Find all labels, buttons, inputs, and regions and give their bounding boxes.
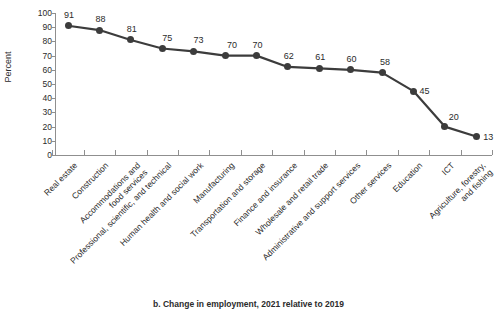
data-point-marker	[127, 36, 134, 43]
y-axis-tick-label: 50	[18, 79, 52, 89]
data-point-marker	[316, 65, 323, 72]
x-axis-tick-mark	[335, 150, 336, 155]
y-axis-tick-mark	[51, 98, 55, 99]
y-axis-tick-label: 100	[18, 8, 52, 18]
data-point-marker	[410, 88, 417, 95]
data-point-marker	[222, 52, 229, 59]
data-point-marker	[473, 133, 480, 140]
x-axis-category-labels: Real estateConstructionAccommodations an…	[0, 155, 497, 295]
x-axis-tick-mark	[461, 150, 462, 155]
data-point-label: 70	[227, 40, 237, 50]
data-point-label: 45	[419, 86, 429, 96]
figure-caption: b. Change in employment, 2021 relative t…	[0, 299, 497, 309]
y-axis-tick-mark	[51, 56, 55, 57]
data-point-marker	[65, 22, 72, 29]
data-point-marker	[379, 69, 386, 76]
y-axis-tick-label: 70	[18, 51, 52, 61]
employment-change-line-chart: Percent 1009080706050403020100 918881757…	[0, 0, 497, 312]
x-axis-tick-mark	[147, 150, 148, 155]
data-point-label: 75	[162, 33, 172, 43]
y-axis-line	[55, 13, 56, 155]
x-axis-tick-mark	[366, 150, 367, 155]
y-axis-tick-mark	[51, 70, 55, 71]
y-axis-tick-mark	[51, 141, 55, 142]
data-point-label: 73	[194, 35, 204, 45]
data-point-label: 62	[284, 51, 294, 61]
x-axis-category-label: Education	[392, 161, 425, 194]
y-axis-title: Percent	[3, 37, 13, 97]
y-axis-tick-labels: 1009080706050403020100	[18, 8, 52, 160]
data-point-marker	[253, 52, 260, 59]
data-point-label: 61	[315, 52, 325, 62]
x-axis-tick-mark	[84, 150, 85, 155]
x-axis-tick-mark	[272, 150, 273, 155]
x-axis-tick-mark	[304, 150, 305, 155]
y-axis-tick-label: 30	[18, 107, 52, 117]
data-point-label: 91	[64, 10, 74, 20]
x-axis-tick-mark	[178, 150, 179, 155]
data-point-marker	[190, 48, 197, 55]
y-axis-tick-mark	[51, 127, 55, 128]
data-point-label: 81	[127, 24, 137, 34]
x-axis-tick-mark	[209, 150, 210, 155]
y-axis-tick-mark	[51, 13, 55, 14]
y-axis-tick-mark	[51, 112, 55, 113]
y-axis-tick-label: 90	[18, 22, 52, 32]
data-point-marker	[441, 123, 448, 130]
y-axis-tick-mark	[51, 84, 55, 85]
data-point-label: 60	[347, 54, 357, 64]
y-axis-tick-label: 40	[18, 93, 52, 103]
x-axis-tick-mark	[115, 150, 116, 155]
y-axis-tick-label: 20	[18, 122, 52, 132]
x-axis-tick-mark	[429, 150, 430, 155]
x-axis-category-label: Agriculture, forestry, and fishing	[428, 161, 495, 228]
data-point-label: 58	[380, 57, 390, 67]
x-axis-category-label: ICT	[440, 161, 456, 177]
x-axis-tick-mark	[398, 150, 399, 155]
data-point-label: 20	[449, 112, 459, 122]
x-axis-tick-mark	[241, 150, 242, 155]
data-point-label: 88	[95, 14, 105, 24]
y-axis-tick-mark	[51, 155, 55, 156]
y-axis-tick-mark	[51, 27, 55, 28]
data-point-label: 70	[252, 40, 262, 50]
y-axis-tick-label: 80	[18, 36, 52, 46]
y-axis-tick-label: 10	[18, 136, 52, 146]
data-point-marker	[284, 63, 291, 70]
x-axis-tick-mark	[492, 150, 493, 155]
y-axis-tick-label: 60	[18, 65, 52, 75]
y-axis-tick-mark	[51, 41, 55, 42]
data-point-marker	[347, 66, 354, 73]
data-point-label: 13	[483, 132, 493, 142]
data-point-marker	[159, 45, 166, 52]
x-axis-tick-mark	[52, 150, 53, 155]
data-point-marker	[96, 27, 103, 34]
